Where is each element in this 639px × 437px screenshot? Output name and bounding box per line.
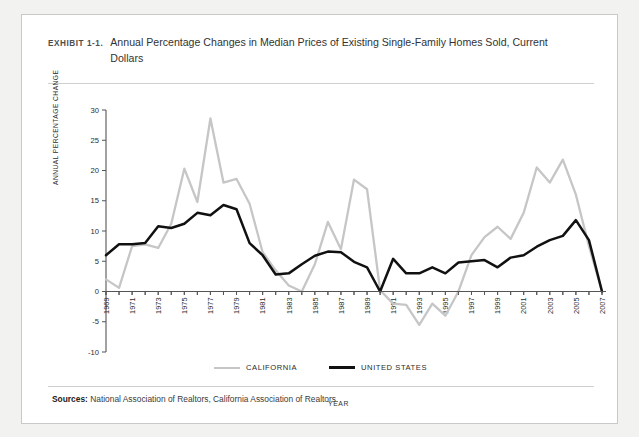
sources-prefix: Sources:: [52, 394, 88, 404]
y-tick-label: 25: [91, 136, 99, 145]
sources-text: National Association of Realtors, Califo…: [88, 394, 338, 404]
exhibit-label: EXHIBIT 1-1.: [48, 38, 103, 48]
series-line-united-states: [106, 205, 602, 292]
x-tick-label: 1971: [128, 298, 137, 314]
x-tick-label: 2005: [572, 298, 581, 314]
x-tick-label: 1975: [180, 298, 189, 314]
header-divider: [48, 83, 594, 84]
x-tick-label: 2003: [546, 298, 555, 314]
y-tick-label: 0: [95, 287, 99, 296]
y-tick-label: 20: [91, 166, 99, 175]
x-tick-label: 1981: [258, 298, 267, 314]
exhibit-card: EXHIBIT 1-1. Annual Percentage Changes i…: [21, 14, 618, 424]
chart-plot-area: ANNUAL PERCENTAGE CHANGE YEAR 3025201510…: [22, 85, 619, 385]
legend-label-united-states: UNITED STATES: [361, 363, 427, 372]
x-tick-label: 1997: [467, 298, 476, 314]
chart-legend: CALIFORNIA UNITED STATES: [22, 363, 619, 372]
legend-item-california: CALIFORNIA: [214, 363, 297, 372]
x-tick-label: 1999: [493, 298, 502, 314]
x-tick-label: 1979: [232, 298, 241, 314]
x-tick-label: 1985: [311, 298, 320, 314]
x-tick-label: 2001: [519, 298, 528, 314]
x-tick-label: 1973: [154, 298, 163, 314]
screenshot-root: EXHIBIT 1-1. Annual Percentage Changes i…: [0, 0, 639, 437]
x-tick-label: 1989: [363, 298, 372, 314]
x-tick-label: 1969: [102, 298, 111, 314]
exhibit-title: Annual Percentage Changes in Median Pric…: [110, 35, 580, 66]
legend-swatch-united-states: [329, 366, 355, 369]
exhibit-header: EXHIBIT 1-1. Annual Percentage Changes i…: [48, 35, 594, 66]
x-tick-label: 1993: [415, 298, 424, 314]
y-tick-label: 15: [91, 196, 99, 205]
y-tick-label: -10: [88, 348, 99, 357]
y-tick-label: -5: [92, 317, 99, 326]
x-tick-label: 2007: [598, 298, 607, 314]
footer-divider: [48, 386, 594, 387]
sources-note: Sources: National Association of Realtor…: [52, 394, 338, 404]
x-tick-label: 1977: [206, 298, 215, 314]
legend-swatch-california: [214, 367, 240, 369]
legend-item-united-states: UNITED STATES: [329, 363, 427, 372]
y-tick-label: 5: [95, 257, 99, 266]
legend-label-california: CALIFORNIA: [246, 363, 297, 372]
x-tick-label: 1987: [337, 298, 346, 314]
line-chart: 302520151050-5-1019691971197319751977197…: [22, 85, 619, 385]
x-tick-label: 1983: [285, 298, 294, 314]
y-tick-label: 10: [91, 227, 99, 236]
y-tick-label: 30: [91, 106, 99, 115]
